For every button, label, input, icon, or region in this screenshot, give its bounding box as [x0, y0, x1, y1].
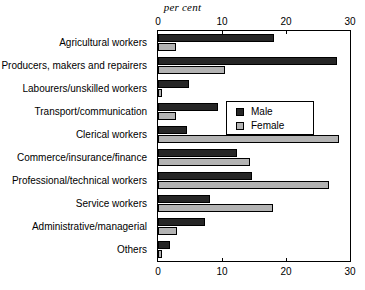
bar-female	[158, 227, 177, 235]
x-axis-tick-label-bottom: 30	[344, 266, 355, 277]
category-label: Clerical workers	[76, 128, 147, 139]
x-axis-tick-label-bottom: 0	[155, 266, 161, 277]
bar-female	[158, 112, 176, 120]
chart-legend: Male Female	[226, 101, 314, 135]
bar-female	[158, 181, 329, 189]
category-label: Service workers	[76, 197, 147, 208]
bar-male	[158, 195, 210, 203]
bar-male	[158, 80, 189, 88]
legend-label-male: Male	[251, 107, 273, 117]
legend-item-male: Male	[227, 105, 313, 119]
category-label: Agricultural workers	[59, 36, 147, 47]
category-label: Administrative/managerial	[32, 220, 147, 231]
category-label: Others	[117, 243, 147, 254]
y-axis-category-labels: Agricultural workersProducers, makers an…	[0, 30, 153, 262]
bar-female	[158, 89, 162, 97]
x-axis-tick-label-top: 30	[344, 16, 355, 27]
bar-male	[158, 57, 337, 65]
bar-male	[158, 126, 187, 134]
x-axis-tick-label-top: 10	[216, 16, 227, 27]
bar-male	[158, 103, 218, 111]
legend-label-female: Female	[251, 121, 284, 131]
legend-item-female: Female	[227, 119, 313, 133]
bar-female	[158, 135, 339, 143]
bar-female	[158, 158, 250, 166]
bar-male	[158, 172, 252, 180]
bar-male	[158, 34, 274, 42]
legend-swatch-male-icon	[236, 108, 244, 116]
bar-male	[158, 218, 205, 226]
bar-female	[158, 250, 162, 258]
bar-male	[158, 149, 237, 157]
x-axis-tick-label-top: 0	[155, 16, 161, 27]
chart-title: per cent	[0, 1, 365, 13]
bars-container	[158, 31, 350, 261]
category-label: Labourers/unskilled workers	[22, 82, 147, 93]
category-label: Producers, makers and repairers	[1, 59, 147, 70]
bar-female	[158, 204, 273, 212]
occupation-by-gender-bar-chart: per cent 00101020203030 Agricultural wor…	[0, 0, 365, 290]
bar-female	[158, 66, 225, 74]
x-axis-tick-label-bottom: 20	[280, 266, 291, 277]
x-axis-tick-label-top: 20	[280, 16, 291, 27]
x-axis-tick-label-bottom: 10	[216, 266, 227, 277]
bar-male	[158, 241, 170, 249]
legend-swatch-female-icon	[236, 122, 244, 130]
bar-female	[158, 43, 176, 51]
category-label: Transport/communication	[35, 105, 147, 116]
category-label: Commerce/insurance/finance	[17, 151, 147, 162]
category-label: Professional/technical workers	[12, 174, 147, 185]
